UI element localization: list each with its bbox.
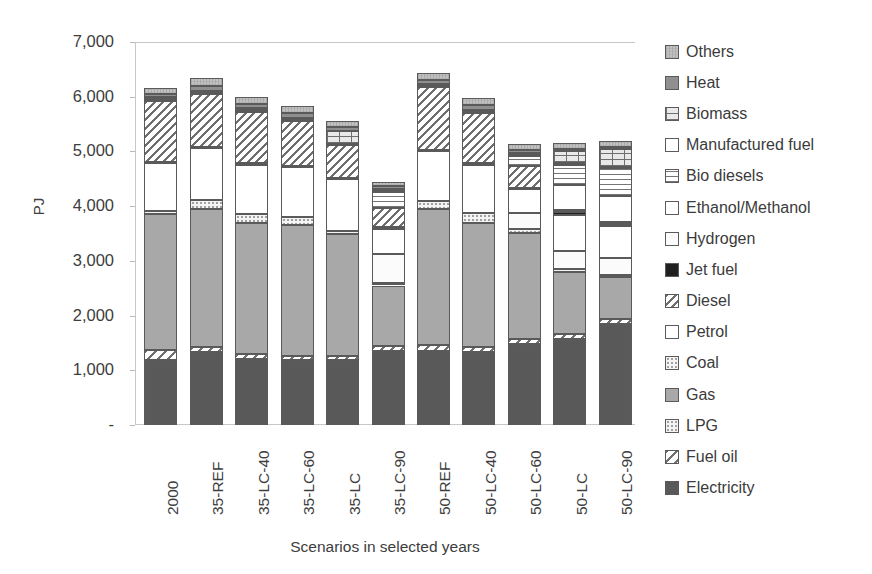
legend-label: Ethanol/Methanol [686, 200, 811, 216]
legend-item-electricity[interactable]: Electricity [665, 473, 870, 504]
bar-segment-heat [326, 127, 359, 130]
bar-segment-electricity [281, 360, 314, 425]
legend-item-diesel[interactable]: Diesel [665, 286, 870, 317]
bar-segment-gas [190, 209, 223, 347]
bar-segment-lpg [326, 231, 359, 234]
legend-label: LPG [686, 418, 718, 434]
bar-35-REF[interactable] [190, 78, 223, 425]
bar-segment-fuel-oil [553, 334, 586, 339]
bar-segment-ethanol-methanol [144, 163, 177, 211]
bar-segment-fuel-oil [372, 346, 405, 351]
bar-segment-gas [326, 234, 359, 356]
bar-segment-bio-diesels [599, 168, 632, 196]
legend-item-hydrogen[interactable]: Hydrogen [665, 223, 870, 254]
bar-segment-gas [372, 286, 405, 346]
bar-segment-heat [508, 150, 541, 153]
bar-segment-diesel [372, 208, 405, 228]
legend-item-ethanol-methanol[interactable]: Ethanol/Methanol [665, 192, 870, 223]
y-tick-label: 6,000 [50, 88, 114, 105]
bar-segment-jet-fuel [553, 212, 586, 215]
x-tick-label-35-REF: 35-REF [209, 462, 227, 515]
bar-segment-ethanol-methanol [281, 167, 314, 217]
legend-label: Jet fuel [686, 262, 738, 278]
y-tick-mark [130, 97, 135, 98]
legend-item-biomass[interactable]: Biomass [665, 98, 870, 129]
legend-label: Electricity [686, 480, 754, 496]
bar-35-LC[interactable] [326, 121, 359, 425]
bar-segment-gas [508, 233, 541, 339]
bar-35-LC-60[interactable] [281, 106, 314, 425]
y-axis-tick-labels: -1,0002,0003,0004,0005,0006,0007,000 [48, 0, 114, 574]
bar-segment-others [190, 78, 223, 86]
y-tick-label: 5,000 [50, 142, 114, 159]
bar-50-REF[interactable] [417, 73, 450, 425]
bar-2000[interactable] [144, 88, 177, 425]
bar-segment-ethanol-methanol [190, 148, 223, 201]
x-tick-label-50-LC-90: 50-LC-90 [618, 450, 636, 515]
legend-swatch-icon [665, 263, 679, 277]
bar-segment-others [462, 98, 495, 105]
y-tick-mark [130, 316, 135, 317]
legend-label: Diesel [686, 293, 730, 309]
legend-swatch-icon [665, 76, 679, 90]
legend-item-heat[interactable]: Heat [665, 67, 870, 98]
bar-segment-biomass [372, 189, 405, 192]
bar-segment-heat [372, 186, 405, 188]
bar-50-LC-90[interactable] [599, 141, 632, 426]
bar-segment-diesel [553, 210, 586, 212]
bar-segment-diesel [190, 94, 223, 147]
bar-segment-gas [599, 277, 632, 319]
bar-50-LC[interactable] [553, 143, 586, 425]
bar-segment-electricity [508, 344, 541, 425]
legend-swatch-icon [665, 201, 679, 215]
legend-item-lpg[interactable]: LPG [665, 410, 870, 441]
legend-swatch-icon [665, 450, 679, 464]
bar-segment-electricity [235, 359, 268, 425]
bar-35-LC-90[interactable] [372, 182, 405, 425]
x-axis-title: Scenarios in selected years [135, 538, 635, 556]
y-tick-label: 1,000 [50, 361, 114, 378]
legend-swatch-icon [665, 356, 679, 370]
bar-segment-electricity [599, 324, 632, 425]
y-tick-label: 4,000 [50, 197, 114, 214]
bar-segment-gas [417, 209, 450, 345]
bar-segment-ethanol-methanol [372, 229, 405, 254]
bar-segment-others [417, 73, 450, 80]
legend-item-gas[interactable]: Gas [665, 379, 870, 410]
bar-segment-fuel-oil [508, 339, 541, 344]
legend-item-coal[interactable]: Coal [665, 348, 870, 379]
bar-segment-biomass [417, 84, 450, 86]
stacked-bar-chart: PJ -1,0002,0003,0004,0005,0006,0007,000 … [0, 0, 872, 574]
x-tick-label-50-LC: 50-LC [573, 473, 591, 515]
bar-segment-lpg [599, 275, 632, 278]
bar-segment-biomass [599, 149, 632, 167]
legend-item-petrol[interactable]: Petrol [665, 317, 870, 348]
bar-segment-others [372, 182, 405, 187]
legend-item-others[interactable]: Others [665, 36, 870, 67]
bar-35-LC-40[interactable] [235, 97, 268, 425]
bar-segment-heat [281, 113, 314, 118]
bar-segment-ethanol-methanol [417, 151, 450, 200]
bar-segment-fuel-oil [190, 347, 223, 352]
bar-segment-bio-diesels [372, 192, 405, 207]
legend-item-manufactured-fuel[interactable]: Manufactured fuel [665, 130, 870, 161]
legend-item-fuel-oil[interactable]: Fuel oil [665, 441, 870, 472]
bar-segment-lpg [553, 269, 586, 272]
bar-segment-diesel [235, 112, 268, 164]
bar-segment-fuel-oil [417, 345, 450, 351]
bar-segment-heat [144, 94, 177, 97]
bar-segment-ethanol-methanol [235, 165, 268, 214]
bar-segment-others [508, 144, 541, 151]
bar-segment-fuel-oil [235, 354, 268, 359]
bar-segment-electricity [553, 339, 586, 425]
legend-item-bio-diesels[interactable]: Bio diesels [665, 161, 870, 192]
legend-label: Coal [686, 355, 719, 371]
legend-item-jet-fuel[interactable]: Jet fuel [665, 254, 870, 285]
bar-50-LC-60[interactable] [508, 144, 541, 425]
x-tick-label-50-LC-60: 50-LC-60 [527, 450, 545, 515]
bar-segment-fuel-oil [326, 356, 359, 361]
bar-50-LC-40[interactable] [462, 98, 495, 425]
x-tick-label-35-LC-40: 35-LC-40 [255, 450, 273, 515]
plot-area [135, 42, 635, 425]
bar-segment-others [144, 88, 177, 94]
